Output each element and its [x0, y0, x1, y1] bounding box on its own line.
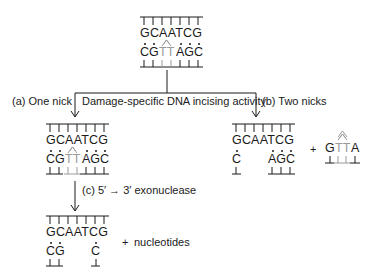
- plus-sign: +: [310, 143, 316, 155]
- path-c-duplex: GCAATCG CG C: [46, 216, 109, 266]
- bottom-strand-left: C: [232, 152, 241, 166]
- plus-sign: +: [122, 236, 128, 248]
- bottom-strand-left: CG: [46, 244, 65, 258]
- bottom-strand-right: C: [91, 244, 100, 258]
- bottom-strand-dimer: TT: [65, 152, 81, 166]
- bottom-strand-left: CG: [46, 152, 65, 166]
- path-b-duplex: GCAATCG C AGC: [232, 124, 295, 174]
- nucleotides-label: nucleotides: [134, 236, 190, 248]
- branch-arrows: [71, 70, 260, 117]
- top-strand: GCAATCG: [46, 225, 108, 239]
- top-duplex: GCAATCG CG TT AGC: [140, 17, 203, 67]
- path-a-label: (a) One nick: [12, 95, 72, 107]
- bottom-strand-dimer: TT: [159, 45, 175, 59]
- fragment-left: G: [325, 141, 335, 155]
- excised-fragment: G TT A: [325, 131, 360, 163]
- top-strand: GCAATCG: [46, 133, 108, 147]
- bottom-strand-right: AGC: [268, 152, 295, 166]
- top-strand: GCAATCG: [232, 133, 294, 147]
- bottom-strand-right: AGC: [176, 45, 203, 59]
- bottom-strand-right: AGC: [82, 152, 109, 166]
- fragment-right: A: [351, 141, 360, 155]
- path-a-duplex: GCAATCG CG TT AGC: [46, 124, 109, 174]
- dna-repair-diagram: GCAATCG CG TT AGC (a) One nick Damage-sp…: [0, 0, 371, 276]
- path-c-label: (c) 5′ → 3′ exonuclease: [82, 184, 196, 196]
- top-strand: GCAATCG: [140, 26, 202, 40]
- path-b-label: (b) Two nicks: [262, 95, 327, 107]
- branch-label: Damage-specific DNA incising activity: [82, 95, 267, 107]
- fragment-dimer: TT: [335, 141, 351, 155]
- bottom-strand-left: CG: [140, 45, 159, 59]
- exonuclease-arrow: [71, 181, 79, 211]
